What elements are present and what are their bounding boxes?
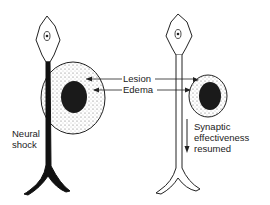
synaptic-arrow-head [185,146,190,153]
right-lesion [199,82,221,110]
edema-label: Edema [123,85,153,95]
diagram-canvas [0,0,270,205]
right-neuron [156,14,227,194]
synaptic-label-line3: resumed [194,144,231,154]
neural-shock-label-line2: shock [12,140,37,150]
synaptic-label-line2: effectiveness [194,133,249,143]
left-lesion [61,81,87,113]
neural-shock-label-line1: Neural [12,129,40,139]
left-neuron [24,16,105,195]
lesion-label: Lesion [123,74,151,84]
synaptic-label-line1: Synaptic [194,122,230,132]
